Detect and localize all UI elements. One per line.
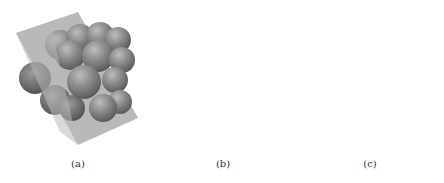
figure-canvas	[0, 0, 444, 183]
caption-c: (c)	[350, 158, 390, 169]
caption-a: (a)	[58, 158, 98, 169]
caption-b: (b)	[203, 158, 243, 169]
panel-a-image	[16, 12, 138, 145]
